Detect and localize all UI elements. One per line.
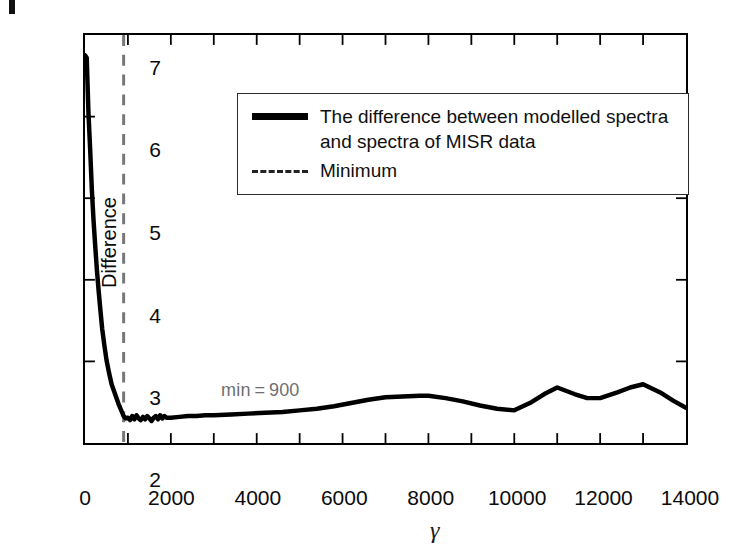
x-tick-label: 10000 — [472, 487, 562, 508]
legend-solid-line-icon — [252, 113, 308, 120]
legend-entry-difference: The difference between modelled spectra … — [252, 104, 668, 154]
x-tick-label: 8000 — [386, 487, 476, 508]
y-tick-label: 7 — [121, 57, 161, 78]
y-axis-title: Difference — [98, 153, 121, 333]
x-axis-title: γ — [430, 517, 439, 544]
x-tick-label: 6000 — [299, 487, 389, 508]
x-tick-label: 14000 — [645, 487, 735, 508]
x-tick-label: 4000 — [213, 487, 303, 508]
y-tick-label: 6 — [121, 139, 161, 160]
legend-label: Minimum — [320, 158, 397, 183]
y-tick-label: 4 — [121, 305, 161, 326]
legend-label: The difference between modelled spectra … — [320, 104, 668, 154]
x-tick-label: 2000 — [126, 487, 216, 508]
y-tick-label: 5 — [121, 222, 161, 243]
legend-dashed-line-icon — [252, 170, 308, 173]
x-tick-label: 12000 — [559, 487, 649, 508]
plot-area: 7 6 5 4 3 2 0200040006000800010000120001… — [83, 33, 688, 445]
page-edge-mark-icon — [9, 0, 15, 14]
legend: The difference between modelled spectra … — [237, 93, 689, 195]
x-tick-label: 0 — [40, 487, 130, 508]
legend-entry-minimum: Minimum — [252, 158, 397, 183]
y-tick-label: 3 — [121, 387, 161, 408]
minimum-annotation: min = 900 — [221, 380, 300, 401]
